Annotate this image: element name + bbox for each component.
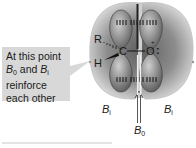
callout-pointer	[70, 61, 90, 76]
magnetic-anisotropy-diagram	[0, 0, 196, 148]
field-point-right	[192, 61, 194, 63]
field-point-left	[89, 61, 91, 63]
atom-h: H	[94, 57, 102, 69]
label-b0: B0	[134, 124, 145, 137]
atom-o: O	[146, 45, 155, 57]
lone-pair: :	[156, 44, 160, 56]
label-bi-right: Bi	[164, 103, 173, 116]
cropped-caption	[2, 142, 112, 144]
label-bi-left: Bi	[102, 103, 111, 116]
field-line-upper	[137, 4, 139, 49]
atom-r: R	[94, 33, 102, 45]
charge-marker: +	[151, 39, 155, 45]
atom-c: C	[119, 45, 127, 57]
